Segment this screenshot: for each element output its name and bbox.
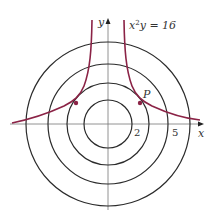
y-axis-label: y	[97, 16, 105, 29]
x-axis-arrow-icon	[198, 122, 204, 127]
lagrange-diagram: P 2 5 x y x2y = 16	[0, 0, 212, 223]
tick-label-5: 5	[172, 127, 178, 138]
point-p-marker	[138, 101, 142, 105]
x-axis-label: x	[198, 127, 205, 140]
tick-label-2: 2	[134, 127, 140, 138]
point-p-label: P	[142, 88, 151, 101]
point-p-mirror-marker	[74, 101, 78, 105]
equation-label: x2y = 16	[129, 19, 176, 32]
y-axis-arrow-icon	[106, 18, 111, 24]
